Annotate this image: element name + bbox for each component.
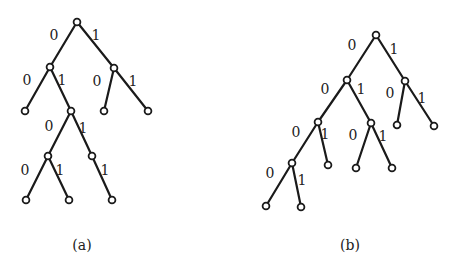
tree-node-root (373, 32, 380, 39)
binary-trees-diagram: 01010101011 010101010101 (a) (b) (0, 0, 457, 273)
edge-label: 1 (418, 90, 427, 106)
edge-label: 0 (23, 72, 32, 88)
tree-node-root (74, 19, 81, 26)
edge-label: 0 (93, 73, 102, 89)
edge-label: 0 (266, 165, 275, 181)
edge-label: 0 (21, 162, 30, 178)
tree-node-lrll (23, 197, 30, 204)
tree-a: 01010101011 (21, 19, 152, 204)
caption-b: (b) (340, 237, 360, 253)
tree-edge (356, 123, 371, 168)
tree-node-llll (263, 203, 270, 210)
edge-label: 0 (292, 124, 301, 140)
edge-label: 1 (357, 81, 366, 97)
edge-label: 1 (321, 126, 330, 142)
edge-label: 1 (58, 72, 67, 88)
edge-label: 1 (56, 162, 65, 178)
tree-node-l (344, 77, 351, 84)
tree-node-rl (101, 108, 108, 115)
edge-label: 0 (386, 85, 395, 101)
tree-node-lllr (298, 204, 305, 211)
edge-label: 1 (101, 162, 110, 178)
edge-label: 0 (349, 127, 358, 143)
tree-node-lrlr (66, 197, 73, 204)
caption-a: (a) (72, 237, 91, 253)
edge-label: 0 (45, 118, 54, 134)
tree-node-l (47, 64, 54, 71)
tree-node-r (111, 65, 118, 72)
tree-node-rr (145, 108, 152, 115)
tree-node-lrl (353, 165, 360, 172)
edge-label: 0 (348, 37, 357, 53)
edge-label: 1 (79, 120, 88, 136)
edge-label: 1 (390, 41, 399, 57)
tree-node-lll (289, 160, 296, 167)
tree-b: 010101010101 (263, 32, 438, 211)
tree-node-lrl (45, 153, 52, 160)
edge-label: 0 (50, 27, 59, 43)
tree-node-rl (394, 122, 401, 129)
tree-node-ll (315, 119, 322, 126)
tree-edge (104, 68, 114, 111)
tree-node-r (402, 78, 409, 85)
tree-node-llr (325, 162, 332, 169)
tree-node-ll (22, 108, 29, 115)
tree-node-lrr (389, 165, 396, 172)
tree-node-lr (368, 120, 375, 127)
tree-edge (397, 81, 405, 125)
edge-label: 1 (129, 73, 138, 89)
edge-label: 1 (379, 128, 388, 144)
edge-label: 0 (321, 81, 330, 97)
tree-node-lrr (89, 153, 96, 160)
edge-label: 1 (298, 172, 307, 188)
tree-node-lrrr (109, 197, 116, 204)
edge-label: 1 (92, 27, 101, 43)
tree-node-lr (68, 108, 75, 115)
tree-node-rr (431, 123, 438, 130)
